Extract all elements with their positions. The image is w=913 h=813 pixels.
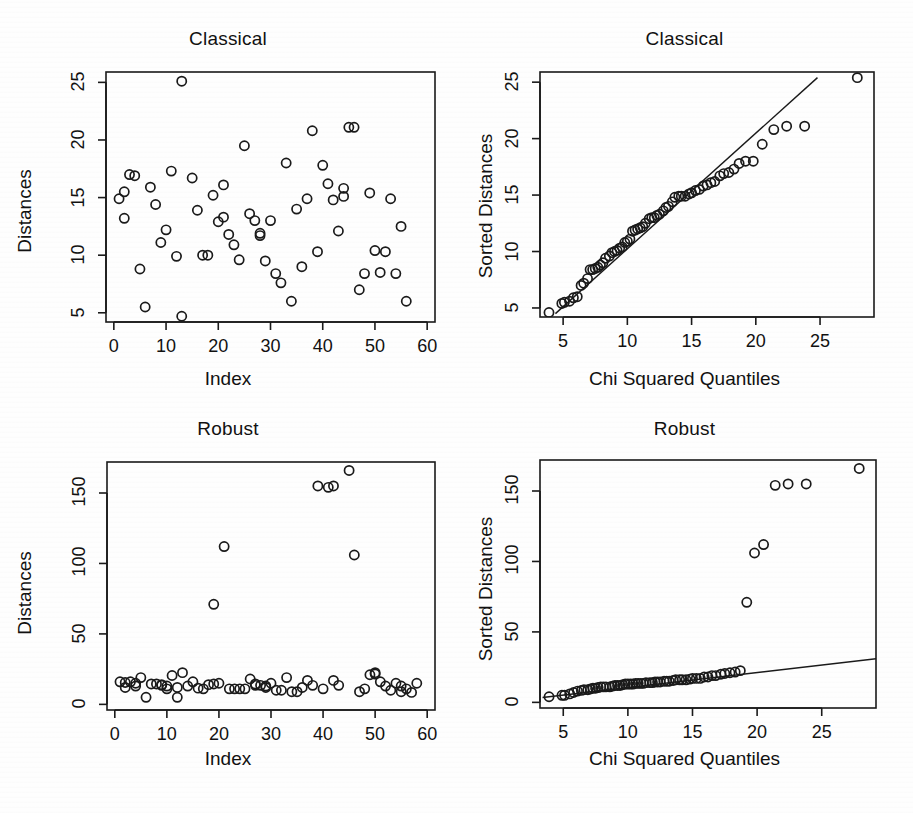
figure-canvas: Classical Index Distances 01020304050605… [0,0,913,813]
x-tick-label: 20 [747,722,767,743]
x-tick-label: 10 [157,724,177,745]
x-tick-label: 20 [746,331,766,352]
y-tick-label: 10 [68,241,89,269]
x-tick-label: 20 [208,336,228,357]
x-tick-label: 40 [313,724,333,745]
x-tick-label: 15 [682,722,702,743]
y-tick-label: 20 [502,124,523,152]
plot-area-classical-qq [456,20,913,415]
axis-title-x-robust-index: Index [0,748,456,770]
y-tick-label: 0 [502,688,523,716]
x-tick-label: 40 [313,336,333,357]
plot-area-robust-qq [456,410,913,805]
x-tick-label: 60 [417,724,437,745]
y-tick-label: 0 [69,690,90,718]
y-tick-label: 25 [502,68,523,96]
x-tick-label: 10 [156,336,176,357]
x-tick-label: 50 [365,724,385,745]
x-tick-label: 60 [417,336,437,357]
plot-area-robust-index [0,410,456,805]
axis-title-y-classical-qq: Sorted Distances [475,106,497,306]
x-tick-label: 10 [617,331,637,352]
axis-title-y-robust-qq: Sorted Distances [475,489,497,689]
x-tick-label: 5 [558,722,568,743]
x-tick-label: 15 [682,331,702,352]
x-tick-label: 20 [209,724,229,745]
y-tick-label: 15 [68,183,89,211]
y-tick-label: 50 [502,617,523,645]
axis-title-x-robust-qq: Chi Squared Quantiles [456,748,913,770]
y-tick-label: 15 [502,181,523,209]
x-tick-label: 25 [812,722,832,743]
y-tick-label: 150 [502,477,523,505]
x-tick-label: 10 [618,722,638,743]
y-tick-label: 100 [69,549,90,577]
axis-title-x-classical-index: Index [0,368,456,390]
panel-classical-index: Classical Index Distances 01020304050605… [0,20,456,415]
x-tick-label: 30 [261,724,281,745]
panel-robust-qq: Robust Chi Squared Quantiles Sorted Dist… [456,410,913,805]
axis-title-y-classical-index: Distances [14,131,36,291]
x-tick-label: 25 [810,331,830,352]
panel-robust-index: Robust Index Distances 01020304050600501… [0,410,456,805]
x-tick-label: 30 [260,336,280,357]
axis-title-x-classical-qq: Chi Squared Quantiles [456,368,913,390]
y-tick-label: 5 [68,298,89,326]
y-tick-label: 150 [69,479,90,507]
axis-title-y-robust-index: Distances [14,513,36,673]
x-tick-label: 0 [110,724,120,745]
x-tick-label: 5 [558,331,568,352]
y-tick-label: 50 [69,619,90,647]
y-tick-label: 20 [68,125,89,153]
y-tick-label: 100 [502,547,523,575]
y-tick-label: 25 [68,68,89,96]
x-tick-label: 0 [109,336,119,357]
y-tick-label: 10 [502,237,523,265]
panel-classical-qq: Classical Chi Squared Quantiles Sorted D… [456,20,913,415]
x-tick-label: 50 [365,336,385,357]
y-tick-label: 5 [502,293,523,321]
